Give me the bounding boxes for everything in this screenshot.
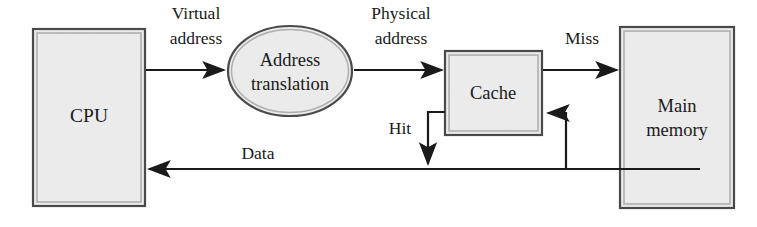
address-translation-fill-texture <box>233 31 347 111</box>
hit-arrow <box>428 112 445 164</box>
edge-hit: Hit <box>389 112 445 164</box>
diagram-canvas: CPU Address translation Cache Main memor… <box>0 0 757 227</box>
main-memory-box-fill-texture <box>625 32 729 203</box>
virtual-address-label-line2: address <box>170 28 223 48</box>
physical-address-label-line2: address <box>375 28 428 48</box>
edge-physical-address: Physical address <box>354 3 442 70</box>
node-cpu[interactable]: CPU <box>33 29 145 206</box>
cache-label: Cache <box>470 83 516 103</box>
memory-hierarchy-diagram: CPU Address translation Cache Main memor… <box>0 0 757 227</box>
physical-address-label-line1: Physical <box>371 3 430 23</box>
memory-to-cache-fill-arrow <box>548 113 619 169</box>
main-memory-label-line1: Main <box>657 96 696 116</box>
miss-label: Miss <box>565 28 599 48</box>
virtual-address-label-line1: Virtual <box>172 3 221 23</box>
edge-memory-to-cache-fill <box>548 113 619 169</box>
data-label: Data <box>241 143 274 163</box>
node-cache[interactable]: Cache <box>445 51 542 135</box>
address-translation-label-line1: Address <box>260 50 321 70</box>
address-translation-label-line2: translation <box>251 74 329 94</box>
edge-virtual-address: Virtual address <box>146 3 224 70</box>
edge-miss: Miss <box>543 28 617 70</box>
main-memory-label-line2: memory <box>646 120 708 140</box>
edge-data: Data <box>149 143 700 169</box>
node-address-translation[interactable]: Address translation <box>228 26 352 116</box>
cpu-label: CPU <box>70 105 108 126</box>
node-main-memory[interactable]: Main memory <box>620 27 734 208</box>
hit-label: Hit <box>389 118 412 138</box>
